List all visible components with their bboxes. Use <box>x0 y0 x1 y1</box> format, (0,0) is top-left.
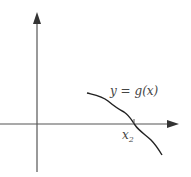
y-axis-arrow-icon <box>33 12 41 24</box>
x-axis-arrow-icon <box>167 120 179 128</box>
function-graph: y = g(x) x2 <box>0 0 191 177</box>
curve-label: y = g(x) <box>109 84 159 98</box>
root-label: x2 <box>122 128 134 144</box>
x-axis <box>0 120 179 128</box>
y-axis <box>33 12 41 172</box>
root-label-subscript: 2 <box>128 135 134 144</box>
